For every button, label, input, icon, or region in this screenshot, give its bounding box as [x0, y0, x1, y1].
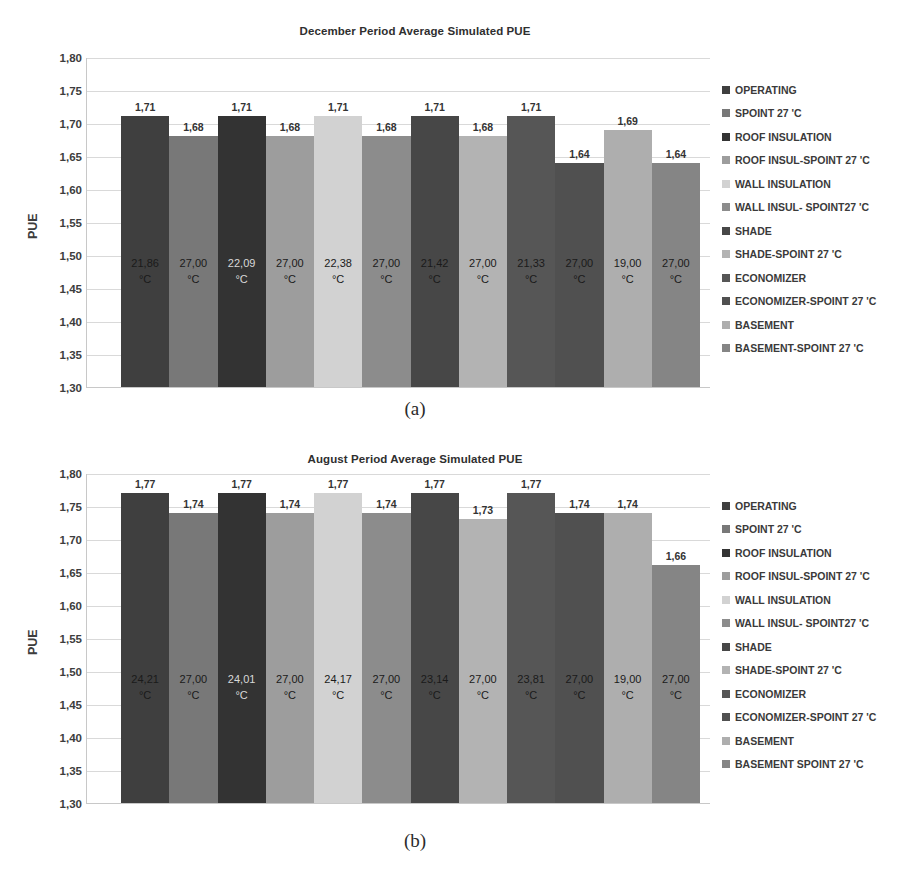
legend-item-label: ROOF INSUL-SPOINT 27 'C: [735, 154, 870, 166]
legend-item[interactable]: SHADE: [722, 635, 922, 659]
y-axis-tick-label: 1,45: [38, 699, 82, 711]
bar-item[interactable]: 1,7427,00°C: [266, 474, 314, 803]
chart-legend: OPERATINGSPOINT 27 'CROOF INSULATIONROOF…: [722, 494, 922, 776]
bar-temperature-value: 21,42: [421, 257, 449, 269]
legend-item[interactable]: WALL INSULATION: [722, 588, 922, 612]
y-axis-tick-label: 1,60: [38, 600, 82, 612]
bar-item[interactable]: 1,7427,00°C: [169, 474, 217, 803]
bar-item[interactable]: 1,7121,86°C: [121, 58, 169, 387]
figure-december: December Period Average Simulated PUEPUE…: [0, 0, 924, 436]
legend-item[interactable]: SHADE: [722, 219, 922, 243]
legend-item[interactable]: BASEMENT SPOINT 27 'C: [722, 753, 922, 777]
bar-item[interactable]: 1,7419,00°C: [604, 474, 652, 803]
legend-item[interactable]: SHADE-SPOINT 27 'C: [722, 659, 922, 683]
legend-swatch-icon: [722, 502, 730, 510]
bar[interactable]: [121, 493, 169, 803]
bar[interactable]: [507, 493, 555, 803]
bar[interactable]: [218, 493, 266, 803]
legend-item-label: ECONOMIZER: [735, 272, 806, 284]
legend-item[interactable]: BASEMENT: [722, 313, 922, 337]
legend-item[interactable]: ROOF INSUL-SPOINT 27 'C: [722, 565, 922, 589]
legend-item[interactable]: OPERATING: [722, 78, 922, 102]
bar[interactable]: [121, 116, 169, 387]
legend-item[interactable]: ECONOMIZER-SPOINT 27 'C: [722, 290, 922, 314]
bar[interactable]: [411, 116, 459, 387]
bar-item[interactable]: 1,7427,00°C: [555, 474, 603, 803]
bar-item[interactable]: 1,6627,00°C: [652, 474, 700, 803]
bar-temperature-label: 27,00°C: [648, 672, 704, 704]
bar[interactable]: [218, 116, 266, 387]
legend-item-label: SPOINT 27 'C: [735, 523, 802, 535]
bar-item[interactable]: 1,7724,21°C: [121, 474, 169, 803]
legend-item-label: WALL INSUL- SPOINT27 'C: [735, 617, 869, 629]
figure-august: August Period Average Simulated PUEPUE1,…: [0, 436, 924, 872]
bar-temperature-value: 24,21: [131, 673, 159, 685]
bar-temperature-unit: °C: [648, 272, 704, 288]
legend-item[interactable]: ECONOMIZER-SPOINT 27 'C: [722, 706, 922, 730]
legend-swatch-icon: [722, 666, 730, 674]
legend-item[interactable]: BASEMENT: [722, 729, 922, 753]
bar-item[interactable]: 1,7723,14°C: [411, 474, 459, 803]
bar[interactable]: [314, 493, 362, 803]
bar-temperature-value: 27,00: [180, 673, 208, 685]
legend-item[interactable]: OPERATING: [722, 494, 922, 518]
legend-item[interactable]: ECONOMIZER: [722, 266, 922, 290]
bar[interactable]: [169, 513, 217, 803]
bar-temperature-value: 22,09: [228, 257, 256, 269]
y-axis-tick-label: 1,35: [38, 349, 82, 361]
legend-item-label: BASEMENT-SPOINT 27 'C: [735, 342, 864, 354]
bar[interactable]: [555, 513, 603, 803]
bar-temperature-value: 24,01: [228, 673, 256, 685]
legend-item-label: ROOF INSULATION: [735, 547, 832, 559]
legend-swatch-icon: [722, 713, 730, 721]
legend-item[interactable]: SHADE-SPOINT 27 'C: [722, 243, 922, 267]
bar-item[interactable]: 1,7723,81°C: [507, 474, 555, 803]
bar-temperature-value: 27,00: [469, 257, 497, 269]
legend-swatch-icon: [722, 203, 730, 211]
legend-swatch-icon: [722, 549, 730, 557]
bar-item[interactable]: 1,6427,00°C: [652, 58, 700, 387]
bar-temperature-value: 21,33: [517, 257, 545, 269]
y-axis-tick-label: 1,35: [38, 765, 82, 777]
legend-item[interactable]: WALL INSULATION: [722, 172, 922, 196]
legend-item[interactable]: ROOF INSULATION: [722, 125, 922, 149]
legend-item-label: ROOF INSUL-SPOINT 27 'C: [735, 570, 870, 582]
y-axis-tick-label: 1,60: [38, 184, 82, 196]
bar-group: 1,7724,21°C1,7427,00°C1,7724,01°C1,7427,…: [121, 474, 700, 803]
bar[interactable]: [459, 519, 507, 803]
legend-item[interactable]: BASEMENT-SPOINT 27 'C: [722, 337, 922, 361]
legend-item-label: OPERATING: [735, 84, 797, 96]
bar-item[interactable]: 1,7121,42°C: [411, 58, 459, 387]
bar-item[interactable]: 1,7121,33°C: [507, 58, 555, 387]
bar-item[interactable]: 1,6919,00°C: [604, 58, 652, 387]
legend-swatch-icon: [722, 274, 730, 282]
legend-item[interactable]: SPOINT 27 'C: [722, 518, 922, 542]
bar-item[interactable]: 1,6427,00°C: [555, 58, 603, 387]
y-axis-tick-label: 1,30: [38, 798, 82, 810]
legend-item-label: OPERATING: [735, 500, 797, 512]
bar[interactable]: [411, 493, 459, 803]
legend-swatch-icon: [722, 525, 730, 533]
legend-item[interactable]: ECONOMIZER: [722, 682, 922, 706]
y-axis-tick-label: 1,75: [38, 501, 82, 513]
bar-item[interactable]: 1,7122,09°C: [218, 58, 266, 387]
bar-item[interactable]: 1,7122,38°C: [314, 58, 362, 387]
legend-item[interactable]: ROOF INSUL-SPOINT 27 'C: [722, 149, 922, 173]
bar-item[interactable]: 1,7724,01°C: [218, 474, 266, 803]
bar[interactable]: [362, 513, 410, 803]
legend-item[interactable]: WALL INSUL- SPOINT27 'C: [722, 612, 922, 636]
legend-swatch-icon: [722, 297, 730, 305]
bar[interactable]: [266, 513, 314, 803]
legend-item[interactable]: WALL INSUL- SPOINT27 'C: [722, 196, 922, 220]
legend-item[interactable]: SPOINT 27 'C: [722, 102, 922, 126]
bar-item[interactable]: 1,7427,00°C: [362, 474, 410, 803]
legend-item[interactable]: ROOF INSULATION: [722, 541, 922, 565]
bar-item[interactable]: 1,7327,00°C: [459, 474, 507, 803]
bar[interactable]: [314, 116, 362, 387]
legend-item-label: SHADE: [735, 225, 772, 237]
y-axis-tick-label: 1,65: [38, 567, 82, 579]
bar-temperature-value: 27,00: [373, 257, 401, 269]
legend-item-label: BASEMENT: [735, 319, 794, 331]
bar-temperature-value: 19,00: [614, 257, 642, 269]
bar-item[interactable]: 1,7724,17°C: [314, 474, 362, 803]
